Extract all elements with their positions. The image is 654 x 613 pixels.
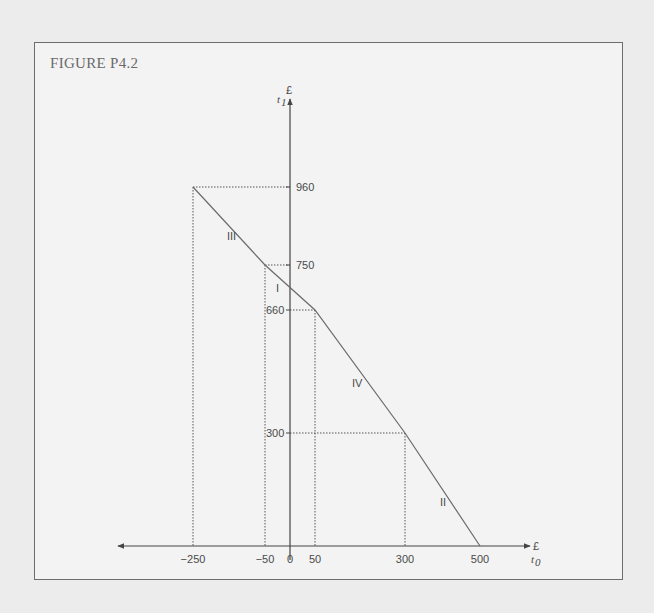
- x-tick-300: 300: [396, 553, 414, 565]
- x-tick-0: 0: [287, 553, 293, 565]
- y-tick-660: 660: [266, 304, 284, 316]
- chart: 960 750 660 300 −250 −50 0 50 300 500 £ …: [0, 0, 654, 613]
- y-tick-960: 960: [296, 181, 314, 193]
- x-tick-50: 50: [309, 553, 321, 565]
- y-axis-subscript: 1: [281, 96, 287, 108]
- x-tick-neg250: −250: [181, 553, 206, 565]
- y-axis-unit: £: [286, 84, 292, 96]
- y-tick-300: 300: [266, 427, 284, 439]
- x-axis-unit: £: [533, 540, 539, 552]
- guide-lines: [193, 187, 405, 546]
- x-tick-neg50: −50: [256, 553, 275, 565]
- segment-label-III: III: [227, 230, 236, 242]
- segment-label-I: I: [276, 282, 279, 294]
- segment-label-IV: IV: [352, 377, 363, 389]
- x-axis-subscript: 0: [535, 556, 541, 568]
- segment-label-II: II: [440, 496, 446, 508]
- y-tick-750: 750: [296, 259, 314, 271]
- x-tick-500: 500: [471, 553, 489, 565]
